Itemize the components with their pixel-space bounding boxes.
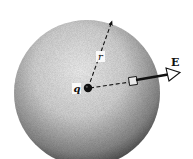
charge-label: q xyxy=(74,83,81,94)
field-label: E xyxy=(171,56,179,69)
gauss-sphere-diagram: r E q xyxy=(0,0,193,159)
field-arrow-head xyxy=(166,68,180,81)
point-charge-highlight xyxy=(86,86,88,88)
point-charge xyxy=(84,84,92,92)
area-element-square xyxy=(128,76,137,85)
